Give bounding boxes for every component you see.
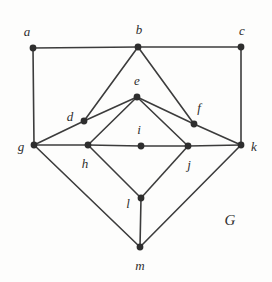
graph-vertex-h [85,142,92,149]
graph-edge-d-g [34,121,84,145]
graph-edge-b-f [138,47,194,124]
vertex-label-g: g [18,140,25,153]
graph-vertex-m [137,244,144,251]
vertex-label-e: e [134,74,140,87]
graph-edge-h-i [88,145,141,146]
graph-canvas [0,0,272,282]
vertex-label-a: a [24,25,31,38]
vertex-label-d: d [67,110,74,123]
graph-vertex-b [135,44,142,51]
vertex-label-i: i [137,123,141,136]
graph-name-label: G [225,213,236,228]
graph-vertex-d [81,118,88,125]
vertex-label-c: c [239,24,245,37]
vertex-label-k: k [251,140,257,153]
vertex-label-l: l [126,197,130,210]
vertex-label-f: f [197,101,201,114]
graph-edge-a-b [33,47,138,48]
graph-edge-l-m [140,198,141,247]
graph-edge-j-k [188,145,241,146]
vertex-label-m: m [135,259,144,272]
graph-vertex-g [31,142,38,149]
graph-vertex-k [238,142,245,149]
vertex-label-j: j [187,158,191,171]
graph-edge-a-g [33,48,34,145]
graph-edge-f-k [194,124,241,145]
graph-vertex-l [138,195,145,202]
graph-edge-h-l [88,145,141,198]
graph-vertex-e [134,94,141,101]
graph-vertex-f [191,121,198,128]
vertex-label-b: b [136,23,143,36]
graph-vertex-a [30,45,37,52]
graph-edge-j-l [141,146,188,198]
graph-vertex-j [185,143,192,150]
vertex-label-h: h [82,157,89,170]
graph-edge-e-f [137,97,194,124]
graph-vertex-i [138,143,145,150]
graph-vertex-c [238,44,245,51]
graph-edge-b-d [84,47,138,121]
graph-figure: abcdefghijklm G [0,0,272,282]
